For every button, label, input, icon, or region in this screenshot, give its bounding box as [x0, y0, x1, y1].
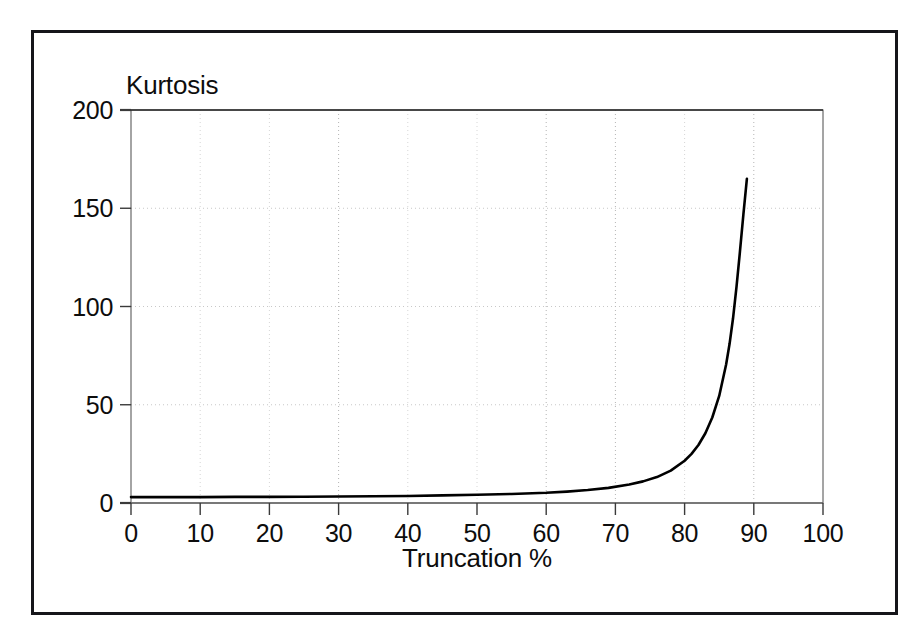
figure-container: 050100150200 0102030405060708090100 Kurt… [0, 0, 923, 641]
x-tick-label-100: 100 [803, 519, 844, 548]
y-axis-title: Kurtosis [126, 70, 218, 101]
x-tick-label-30: 30 [325, 519, 352, 548]
y-tick-label-200: 200 [1, 96, 113, 125]
x-tick-label-0: 0 [124, 519, 138, 548]
tick-marks [120, 110, 823, 515]
x-tick-label-80: 80 [671, 519, 698, 548]
x-tick-label-20: 20 [256, 519, 283, 548]
y-tick-label-100: 100 [1, 292, 113, 321]
x-tick-label-70: 70 [602, 519, 629, 548]
x-tick-label-10: 10 [187, 519, 214, 548]
data-curve [131, 179, 747, 497]
y-tick-label-150: 150 [1, 194, 113, 223]
y-tick-label-50: 50 [1, 390, 113, 419]
x-axis-title: Truncation % [402, 543, 552, 574]
y-tick-label-0: 0 [1, 489, 113, 518]
x-tick-label-90: 90 [740, 519, 767, 548]
